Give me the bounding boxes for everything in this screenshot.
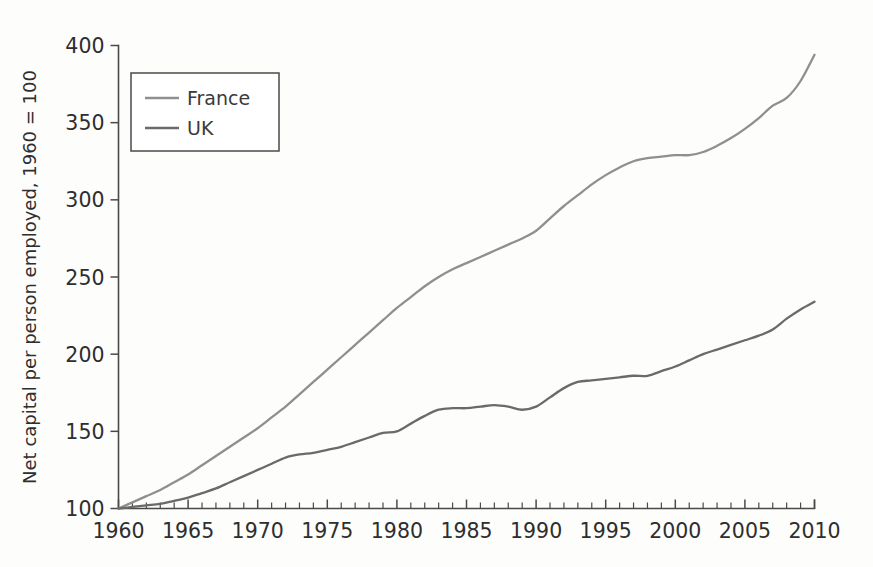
y-axis-label: Net capital per person employed, 1960 = … bbox=[19, 70, 40, 484]
x-tick-label: 1985 bbox=[440, 519, 492, 543]
x-tick-label: 1980 bbox=[371, 519, 423, 543]
line-chart: 1001502002503003504001960196519701975198… bbox=[0, 0, 873, 567]
x-tick-label: 1990 bbox=[510, 519, 562, 543]
legend-box bbox=[131, 73, 279, 151]
x-tick-label: 1965 bbox=[162, 519, 214, 543]
legend-label-uk: UK bbox=[187, 117, 214, 139]
y-tick-label: 200 bbox=[65, 343, 104, 367]
x-tick-label: 2005 bbox=[719, 519, 771, 543]
x-tick-label: 2010 bbox=[788, 519, 840, 543]
y-tick-label: 250 bbox=[65, 266, 104, 290]
x-tick-label: 2000 bbox=[649, 519, 701, 543]
y-tick-label: 350 bbox=[65, 111, 104, 135]
x-tick-label: 1995 bbox=[580, 519, 632, 543]
y-tick-label: 150 bbox=[65, 420, 104, 444]
x-tick-label: 1960 bbox=[92, 519, 144, 543]
y-axis-title: Net capital per person employed, 1960 = … bbox=[19, 70, 40, 484]
x-tick-label: 1975 bbox=[301, 519, 353, 543]
series-line-uk bbox=[119, 302, 815, 509]
x-tick-label: 1970 bbox=[232, 519, 284, 543]
legend-label-france: France bbox=[187, 87, 250, 109]
chart-legend: FranceUK bbox=[131, 73, 279, 151]
chart-figure: 1001502002503003504001960196519701975198… bbox=[0, 0, 873, 567]
y-tick-label: 100 bbox=[65, 497, 104, 521]
y-tick-label: 400 bbox=[65, 34, 104, 58]
y-tick-label: 300 bbox=[65, 188, 104, 212]
